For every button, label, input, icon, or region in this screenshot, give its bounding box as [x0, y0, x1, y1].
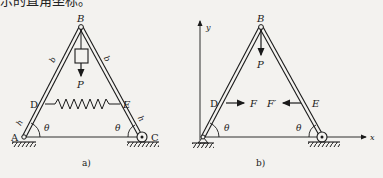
- length-b-left: b: [48, 55, 58, 64]
- point-d-label: D: [30, 99, 38, 110]
- x-axis-label: x: [370, 133, 375, 142]
- roller-c-pin: [141, 136, 144, 139]
- weight-box: [75, 49, 88, 63]
- caption-a: a): [82, 158, 91, 168]
- pin-a2: [201, 135, 205, 139]
- point-b-label: B: [76, 13, 84, 24]
- length-h-left: h: [15, 118, 25, 127]
- point-c-label: C: [151, 132, 159, 143]
- point-a-label: A: [10, 132, 19, 143]
- angle-c-label: θ: [115, 123, 121, 133]
- point-e2-label: E: [311, 98, 320, 109]
- roller-b-pin: [321, 136, 324, 139]
- figure-a: P B D E b b h h θ θ A C a): [10, 13, 159, 168]
- bar-left-b: [201, 27, 263, 137]
- header-text: 示的直角坐标。: [0, 0, 91, 8]
- point-b2-label: B: [256, 13, 264, 24]
- length-b-right: b: [102, 54, 112, 63]
- force-f-prime-label: F′: [266, 98, 277, 109]
- pin-b2: [259, 25, 264, 30]
- pin-b: [79, 25, 84, 30]
- length-h-right: h: [136, 114, 146, 123]
- load-label-b: P: [256, 59, 264, 70]
- mechanics-figure: 示的直角坐标。 P B D E b b h h θ: [0, 0, 383, 178]
- bar-bc: [79, 27, 143, 137]
- ground-left-b-hatch: [192, 143, 214, 148]
- load-label: P: [76, 79, 84, 90]
- point-e-label: E: [122, 99, 131, 110]
- caption-b: b): [256, 158, 265, 168]
- diagram-stage: 示的直角坐标。 P B D E b b h h θ: [0, 0, 383, 178]
- force-f-label: F: [249, 98, 258, 109]
- bar-right-b: [259, 27, 324, 137]
- y-axis-label: y: [205, 23, 211, 32]
- angle-a-label: θ: [44, 123, 50, 133]
- point-d2-label: D: [210, 98, 218, 109]
- bar-ab: [22, 27, 83, 137]
- angle-right-b-label: θ: [296, 123, 302, 133]
- ground-right-b-hatch: [308, 142, 340, 147]
- spring: [45, 99, 120, 109]
- angle-left-b-label: θ: [224, 123, 230, 133]
- figure-b: y x B P D F F′ E θ θ: [192, 13, 375, 168]
- pin-a: [22, 135, 26, 139]
